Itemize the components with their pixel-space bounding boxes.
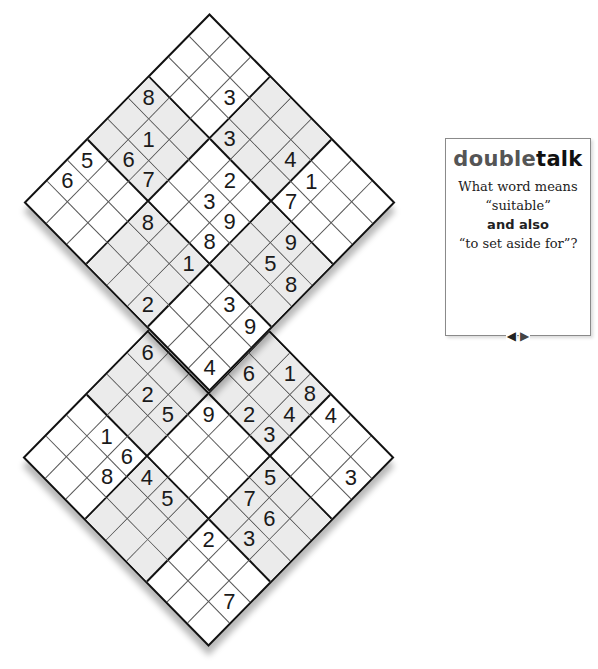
given-digit: 8	[277, 271, 306, 299]
panel-title: doubletalk	[446, 147, 590, 171]
panel-nav: ◀ ▶	[446, 328, 590, 344]
question-line-1: What word means	[446, 177, 590, 196]
given-digit: 4	[195, 354, 224, 383]
question-line-2: “suitable”	[446, 196, 590, 215]
given-digit: 7	[215, 588, 244, 616]
given-digit: 8	[93, 463, 120, 491]
given-digit: 3	[256, 422, 283, 449]
prev-arrow-icon[interactable]: ◀	[506, 328, 517, 344]
given-digit: 2	[134, 291, 161, 320]
given-digit: 3	[216, 126, 244, 153]
given-digit: 5	[154, 401, 181, 429]
question-line-3: and also	[446, 215, 590, 234]
given-digit: 3	[216, 84, 243, 112]
given-digit: 3	[236, 526, 264, 553]
title-talk: talk	[536, 147, 583, 171]
next-arrow-icon[interactable]: ▶	[519, 328, 530, 344]
given-digit: 7	[277, 188, 305, 215]
given-digit: 9	[236, 313, 265, 341]
given-digit: 7	[135, 167, 162, 194]
top-sudoku-grid: 341378291395867858139624	[78, 71, 341, 334]
question-line-4: “to set aside for”?	[446, 234, 590, 253]
doubletalk-panel: doubletalk What word means “suitable” an…	[445, 138, 591, 336]
given-digit: 3	[337, 464, 366, 492]
given-digit: 1	[175, 250, 202, 278]
title-double: double	[453, 147, 536, 171]
